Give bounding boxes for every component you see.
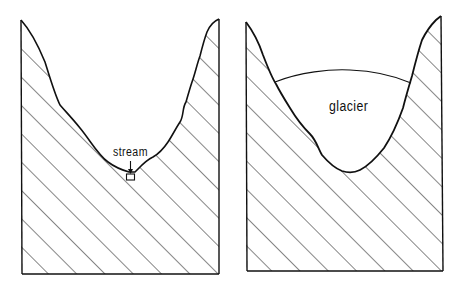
- right-panel-left-edge: [246, 22, 247, 271]
- valley-diagram: [0, 0, 461, 285]
- glacier-label: glacier: [329, 98, 368, 114]
- glacier-surface-arc: [275, 70, 411, 83]
- stream-channel: [127, 174, 135, 180]
- left-panel-left-edge: [21, 20, 22, 274]
- stream-label: stream: [113, 145, 148, 159]
